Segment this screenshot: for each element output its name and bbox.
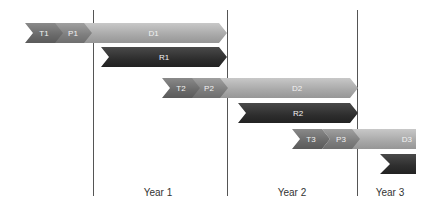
year-label-3: Year 3 <box>360 187 420 198</box>
phase-label: T3 <box>306 135 315 144</box>
result-r1: R1 <box>101 47 227 67</box>
result-label: R2 <box>293 109 303 118</box>
phase-label: P2 <box>204 84 214 93</box>
phase-d1: D1 <box>80 23 227 43</box>
result-r3 <box>380 154 416 174</box>
phase-label: D1 <box>148 29 158 38</box>
phase-t2: T2 <box>162 78 200 98</box>
phase-d2: D2 <box>216 78 358 98</box>
phase-label: D3 <box>402 135 412 144</box>
year-divider-3 <box>357 10 358 196</box>
result-label: R1 <box>159 53 169 62</box>
phase-label: P3 <box>336 135 346 144</box>
year-divider-2 <box>227 10 228 196</box>
phase-label: T1 <box>39 29 48 38</box>
phase-label: P1 <box>68 29 78 38</box>
phase-t1: T1 <box>25 23 63 43</box>
phase-t3: T3 <box>292 129 330 149</box>
result-r2: R2 <box>238 103 358 123</box>
phase-label: D2 <box>292 84 302 93</box>
phase-label: T2 <box>176 84 185 93</box>
year-label-1: Year 1 <box>128 187 188 198</box>
year-label-2: Year 2 <box>262 187 322 198</box>
